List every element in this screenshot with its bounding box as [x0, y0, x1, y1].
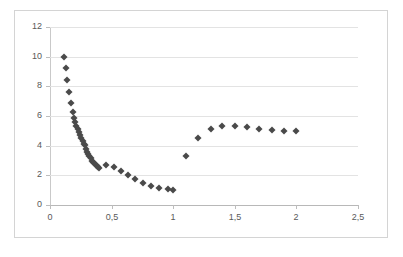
- data-point[interactable]: [117, 167, 124, 174]
- y-axis-tick-label: 6: [14, 111, 42, 120]
- x-axis-tick-label: 2: [281, 213, 311, 222]
- data-point[interactable]: [96, 164, 103, 171]
- y-axis-tick-label: 0: [14, 200, 42, 209]
- data-point[interactable]: [281, 127, 288, 134]
- x-axis-tick-label: 0,5: [97, 213, 127, 222]
- x-axis-tick: [235, 205, 236, 209]
- data-point[interactable]: [268, 127, 275, 134]
- y-axis-tick-label-wrap: 0: [10, 200, 42, 209]
- data-point[interactable]: [111, 164, 118, 171]
- x-axis-tick: [296, 205, 297, 209]
- data-point[interactable]: [60, 53, 67, 60]
- data-point[interactable]: [124, 172, 131, 179]
- data-point[interactable]: [231, 123, 238, 130]
- y-axis-tick-label-wrap: 4: [10, 141, 42, 150]
- data-point[interactable]: [155, 184, 162, 191]
- data-point[interactable]: [256, 125, 263, 132]
- data-point[interactable]: [147, 183, 154, 190]
- data-point[interactable]: [139, 180, 146, 187]
- data-point[interactable]: [195, 135, 202, 142]
- data-point[interactable]: [207, 126, 214, 133]
- data-point[interactable]: [66, 89, 73, 96]
- x-axis-tick-label: 0: [35, 213, 65, 222]
- data-point[interactable]: [293, 127, 300, 134]
- data-point[interactable]: [170, 186, 177, 193]
- y-axis-tick-label-wrap: 6: [10, 111, 42, 120]
- data-point[interactable]: [131, 175, 138, 182]
- scatter-chart: 024681012 00,511,522,5: [0, 0, 403, 257]
- x-axis-tick: [358, 205, 359, 209]
- x-axis-tick-label: 2,5: [343, 213, 373, 222]
- data-point[interactable]: [219, 123, 226, 130]
- y-axis-tick-label-wrap: 12: [10, 22, 42, 31]
- x-axis-tick: [173, 205, 174, 209]
- y-axis-tick-label: 10: [14, 52, 42, 61]
- x-axis-line: [50, 205, 359, 206]
- x-axis-tick: [112, 205, 113, 209]
- plot-area: [50, 27, 358, 205]
- y-axis-tick-label: 4: [14, 141, 42, 150]
- y-axis-tick-label-wrap: 10: [10, 52, 42, 61]
- y-axis-tick-label: 2: [14, 170, 42, 179]
- y-axis-tick-label-wrap: 2: [10, 170, 42, 179]
- y-axis-tick-label: 8: [14, 81, 42, 90]
- y-axis-tick-label: 12: [14, 22, 42, 31]
- data-point[interactable]: [183, 153, 190, 160]
- data-point[interactable]: [244, 124, 251, 131]
- data-point[interactable]: [64, 77, 71, 84]
- data-point[interactable]: [62, 64, 69, 71]
- x-axis-tick-label: 1,5: [220, 213, 250, 222]
- data-point[interactable]: [67, 100, 74, 107]
- data-point[interactable]: [103, 162, 110, 169]
- x-axis-tick: [50, 205, 51, 209]
- x-axis-tick-label: 1: [158, 213, 188, 222]
- y-axis-tick-label-wrap: 8: [10, 81, 42, 90]
